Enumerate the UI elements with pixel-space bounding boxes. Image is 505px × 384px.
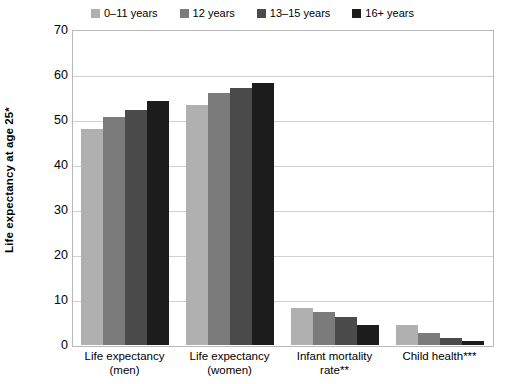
bar[interactable]	[335, 317, 357, 345]
x-axis-tick-label: Infant mortalityrate**	[282, 349, 387, 377]
bar[interactable]	[357, 325, 379, 345]
x-axis-tick-label-line: (women)	[177, 363, 282, 377]
legend-item[interactable]: 12 years	[180, 8, 235, 19]
y-axis-tick-label: 50	[22, 114, 68, 126]
bar[interactable]	[313, 312, 335, 345]
y-axis-tick-label: 60	[22, 69, 68, 81]
legend-swatch-icon	[91, 9, 100, 18]
legend-item-label: 13–15 years	[270, 8, 331, 19]
bar[interactable]	[252, 83, 274, 345]
x-axis-tick-label: Life expectancy(women)	[177, 349, 282, 377]
y-axis-tick-labels: 010203040506070	[16, 30, 68, 346]
y-axis-tick-label: 30	[22, 204, 68, 216]
y-axis-tick-label: 0	[22, 339, 68, 351]
bar[interactable]	[230, 88, 252, 345]
bar[interactable]	[81, 129, 103, 345]
bar[interactable]	[462, 341, 484, 345]
bars-layer	[72, 30, 492, 345]
bar[interactable]	[125, 110, 147, 345]
x-axis-tick-label-line: Child health***	[387, 349, 492, 363]
x-axis-tick-label-line: (men)	[72, 363, 177, 377]
legend-item[interactable]: 0–11 years	[91, 8, 158, 19]
bar[interactable]	[291, 308, 313, 345]
x-axis-tick-label: Child health***	[387, 349, 492, 363]
bar-group	[282, 30, 387, 345]
y-axis-title-label: Life expectancy at age 25*	[3, 107, 15, 253]
bar[interactable]	[396, 325, 418, 345]
bar-group	[177, 30, 282, 345]
legend-swatch-icon	[180, 9, 189, 18]
legend-item-label: 0–11 years	[104, 8, 158, 19]
bar-group	[72, 30, 177, 345]
legend-item[interactable]: 13–15 years	[257, 8, 331, 19]
y-axis-tick-label: 70	[22, 24, 68, 36]
bar[interactable]	[147, 101, 169, 345]
x-axis-tick-label-line: Infant mortality	[282, 349, 387, 363]
bar[interactable]	[440, 338, 462, 345]
legend-item-label: 12 years	[193, 8, 235, 19]
bar[interactable]	[418, 333, 440, 345]
legend-item[interactable]: 16+ years	[352, 8, 414, 19]
legend-swatch-icon	[352, 9, 361, 18]
legend-item-label: 16+ years	[365, 8, 414, 19]
bar-chart: 0–11 years12 years13–15 years16+ years L…	[0, 0, 505, 384]
x-axis-tick-label-line: Life expectancy	[72, 349, 177, 363]
y-axis-tick-label: 20	[22, 249, 68, 261]
chart-legend: 0–11 years12 years13–15 years16+ years	[0, 4, 505, 22]
x-axis-tick-label: Life expectancy(men)	[72, 349, 177, 377]
bar[interactable]	[103, 117, 125, 345]
x-axis-tick-label-line: Life expectancy	[177, 349, 282, 363]
y-axis-tick-label: 10	[22, 294, 68, 306]
bar[interactable]	[208, 93, 230, 345]
x-axis-tick-label-line: rate**	[282, 363, 387, 377]
bar-group	[387, 30, 492, 345]
legend-swatch-icon	[257, 9, 266, 18]
x-axis-tick-labels: Life expectancy(men)Life expectancy(wome…	[72, 349, 492, 384]
y-axis-tick-label: 40	[22, 159, 68, 171]
bar[interactable]	[186, 105, 208, 345]
